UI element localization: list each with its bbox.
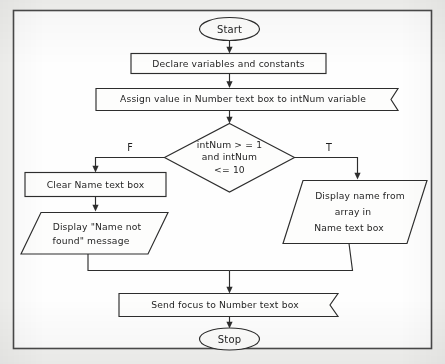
clear-name-process[interactable]: Clear Name text box xyxy=(25,173,166,197)
display-name-line-2: array in xyxy=(335,206,372,217)
range-decision-line-3: <= 10 xyxy=(214,164,245,175)
assign-process[interactable]: Assign value in Number text box to intNu… xyxy=(96,89,398,111)
flowchart-svg: Start Declare variables and constants As… xyxy=(0,0,445,364)
name-not-found-line-2: found" message xyxy=(53,235,130,246)
display-name-line-1: Display name from xyxy=(315,190,405,201)
display-name-output[interactable]: Display name from array in Name text box xyxy=(283,181,427,244)
range-decision-line-2: and intNum xyxy=(202,151,257,162)
start-terminal-label: Start xyxy=(217,24,242,35)
clear-name-process-label: Clear Name text box xyxy=(47,179,145,190)
stop-terminal[interactable]: Stop xyxy=(200,328,260,350)
send-focus-process-label: Send focus to Number text box xyxy=(151,299,299,310)
stop-terminal-label: Stop xyxy=(218,334,241,345)
declare-process-label: Declare variables and constants xyxy=(152,58,305,69)
branch-label-true: T xyxy=(325,142,332,153)
send-focus-process[interactable]: Send focus to Number text box xyxy=(119,294,338,317)
start-terminal[interactable]: Start xyxy=(200,18,260,41)
branch-label-false: F xyxy=(127,142,133,153)
range-decision-line-1: intNum > = 1 xyxy=(197,139,262,150)
assign-process-label: Assign value in Number text box to intNu… xyxy=(120,93,366,104)
name-not-found-output[interactable]: Display "Name not found" message xyxy=(21,213,168,255)
display-name-line-3: Name text box xyxy=(314,222,384,233)
flowchart-canvas: Start Declare variables and constants As… xyxy=(0,0,445,364)
name-not-found-line-1: Display "Name not xyxy=(53,221,142,232)
declare-process[interactable]: Declare variables and constants xyxy=(131,54,326,74)
